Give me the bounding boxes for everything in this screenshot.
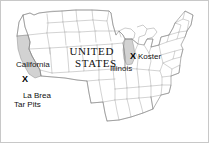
us-map-svg: [1, 1, 209, 143]
site-marker-la-brea-tar-pits: X: [22, 75, 28, 84]
california-highlight: [17, 35, 41, 78]
us-map-figure: UNITEDSTATES California Illinois X La Br…: [0, 0, 209, 143]
site-marker-koster: X: [130, 52, 136, 61]
state-boundary-lines: [17, 10, 193, 121]
